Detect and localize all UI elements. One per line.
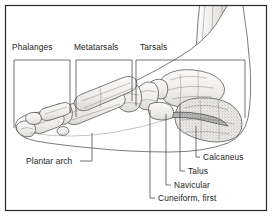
label-cuneiform-first: Cuneiform, first: [158, 193, 217, 203]
label-phalanges: Phalanges: [12, 42, 52, 52]
label-tarsals: Tarsals: [140, 42, 167, 52]
label-metatarsals: Metatarsals: [74, 42, 118, 52]
bone-sesamoid: [57, 127, 69, 136]
label-calcaneus: Calcaneus: [203, 152, 243, 162]
anatomy-figure: Phalanges Metatarsals Tarsals Plantar ar…: [0, 0, 272, 216]
label-navicular: Navicular: [174, 180, 210, 190]
label-plantar-arch: Plantar arch: [26, 156, 73, 166]
label-talus: Talus: [188, 166, 208, 176]
